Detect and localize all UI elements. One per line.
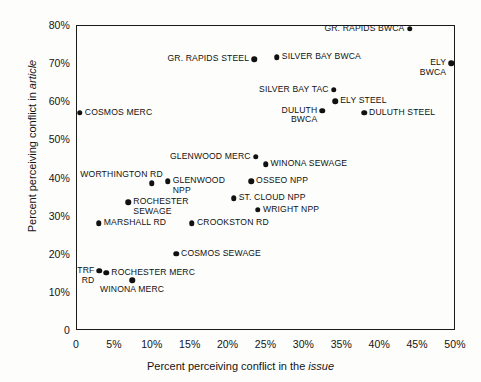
data-point xyxy=(248,179,254,185)
x-tick-label: 45% xyxy=(406,338,427,350)
data-point xyxy=(129,278,135,284)
y-tick-label: 60% xyxy=(49,95,70,107)
x-tick-label: 35% xyxy=(331,338,352,350)
y-tick-label: 10% xyxy=(49,286,70,298)
data-point xyxy=(173,251,179,257)
data-point-label: COSMOS MERC xyxy=(85,108,153,118)
data-point xyxy=(320,108,326,114)
x-tick-label: 0 xyxy=(73,338,79,350)
x-axis-tick-labels: 05%10%15%20%25%30%35%40%45%50% xyxy=(0,338,481,354)
data-point-label: COSMOS SEWAGE xyxy=(181,249,261,259)
data-point-label: SILVER BAY BWCA xyxy=(282,53,361,63)
data-point-label: WRIGHT NPP xyxy=(263,205,319,215)
x-tick-label: 5% xyxy=(106,338,121,350)
data-point-label: GR. RAPIDS STEEL xyxy=(167,55,249,65)
data-point xyxy=(331,87,337,93)
data-point-label: DULUTH STEEL xyxy=(369,108,435,118)
y-tick-label: 0 xyxy=(64,324,70,336)
data-point xyxy=(274,55,280,61)
data-point xyxy=(231,196,237,202)
data-point-label: GLENWOOD NPP xyxy=(173,176,225,195)
data-point-label: DULUTH BWCA xyxy=(270,106,317,125)
data-point-label: ELY BWCA xyxy=(399,58,446,77)
y-tick-label: 80% xyxy=(49,19,70,31)
x-tick-label: 15% xyxy=(179,338,200,350)
data-point xyxy=(332,99,338,105)
data-point xyxy=(149,180,155,186)
data-point xyxy=(407,26,413,32)
data-point xyxy=(165,179,171,185)
data-point xyxy=(253,154,259,160)
data-point-label: SILVER BAY TAC xyxy=(259,85,329,95)
x-tick-label: 20% xyxy=(217,338,238,350)
data-point xyxy=(448,60,454,66)
y-tick-label: 30% xyxy=(49,210,70,222)
data-point-label: WINONA MERC xyxy=(100,285,164,295)
data-point xyxy=(126,200,132,206)
data-point-label: WORTHINGTON RD xyxy=(80,170,162,180)
data-point-label: WINONA SEWAGE xyxy=(271,159,348,169)
y-tick-label: 20% xyxy=(49,248,70,260)
y-tick-label: 70% xyxy=(49,57,70,69)
data-point-label: ELY STEEL xyxy=(340,96,386,106)
data-point xyxy=(96,221,102,227)
data-point-label: CROOKSTON RD xyxy=(197,218,269,228)
scatter-plot-figure: 010%20%30%40%50%60%70%80% 05%10%15%20%25… xyxy=(0,0,481,382)
data-point xyxy=(255,207,261,213)
data-point-label: ST. CLOUD NPP xyxy=(239,194,306,204)
y-tick-label: 50% xyxy=(49,133,70,145)
data-point-label: GLENWOOD MERC xyxy=(170,152,251,162)
x-tick-label: 25% xyxy=(255,338,276,350)
data-point-label: ROCHESTER SEWAGE xyxy=(133,197,188,216)
data-point xyxy=(361,110,367,116)
x-axis-title: Percent perceiving conflict in the issue xyxy=(0,360,481,372)
data-point-label: ROCHESTER MERC xyxy=(111,268,195,278)
data-point xyxy=(77,110,83,116)
data-point-label: MARSHALL RD xyxy=(104,218,166,228)
y-tick-label: 40% xyxy=(49,172,70,184)
x-tick-label: 40% xyxy=(369,338,390,350)
x-tick-label: 50% xyxy=(444,338,465,350)
data-point-label: GR. RAPIDS BWCA xyxy=(324,24,404,34)
data-point xyxy=(104,270,110,276)
x-tick-label: 10% xyxy=(141,338,162,350)
data-point-label: OSSEO NPP xyxy=(256,177,308,187)
data-point-label: TRF RD xyxy=(47,266,94,285)
data-point xyxy=(263,161,269,167)
y-axis-title: Percent perceiving conflict in article xyxy=(26,0,38,296)
data-point xyxy=(97,268,103,274)
data-point xyxy=(189,221,195,227)
data-point xyxy=(251,57,257,63)
x-tick-label: 30% xyxy=(293,338,314,350)
